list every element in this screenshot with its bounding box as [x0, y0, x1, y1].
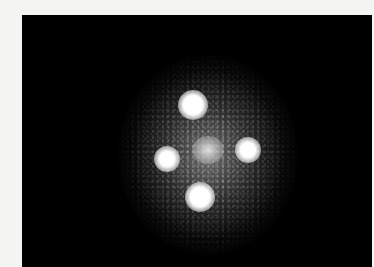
- image-spot-top: [178, 90, 208, 120]
- image-spot-left: [154, 146, 180, 172]
- image-spot-right: [235, 137, 261, 163]
- image-spot-bottom: [185, 182, 215, 212]
- photo-frame: [22, 15, 372, 267]
- image-spot-center: [192, 136, 224, 164]
